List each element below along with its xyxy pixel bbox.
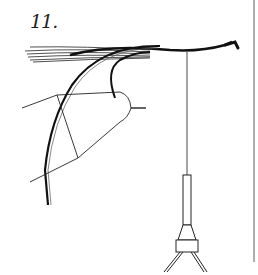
hook-curve-inner [48,48,158,205]
bobbin [164,175,207,272]
fly-tying-illustration [0,0,258,275]
vise-jaws [22,92,146,182]
hook-curve [45,46,160,205]
hook-eye [225,42,238,48]
